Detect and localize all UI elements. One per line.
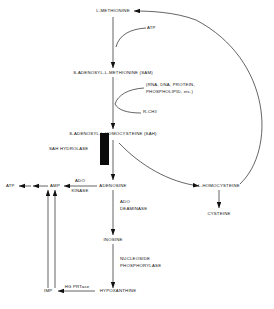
node-cysteine: CYSTEINE <box>207 211 230 217</box>
node-amp: AMP <box>50 183 60 189</box>
node-hypoxanthine: HYPOXANTHINE <box>100 288 137 294</box>
methylated-product-label: R-CH3 <box>143 109 157 115</box>
sah-hydrolase-enzyme-block <box>100 133 109 165</box>
node-l-methionine: L-METHIONINE <box>96 8 129 14</box>
enzyme-sah-hydrolase: SAH HYDROLASE <box>49 146 88 152</box>
enzyme-hg-prtase: HG PRTase <box>65 284 90 290</box>
node-l-homocysteine: L-HOMOCYSTEINE <box>198 183 240 189</box>
node-sah: S-ADENOSYL-L-HOMOCYSTEINE (SAH) <box>69 131 157 137</box>
enzyme-ado-kinase-line-2: KINASE <box>71 188 88 194</box>
methylated-product-subscript: 3 <box>155 110 157 114</box>
curve-atp-cofactor <box>116 28 146 47</box>
curve-methyl-acceptors <box>115 88 144 104</box>
node-atp: ATP <box>6 183 15 189</box>
node-adenosine: ADENOSINE <box>99 183 126 189</box>
enzyme-ado-kinase-line-1: ADO <box>75 178 85 184</box>
node-sam: S-ADENOSYL-L-METHIONINE (SAM) <box>73 70 153 76</box>
enzyme-nucleoside-phosphorylase-line-1: NUCLEOSIDE <box>120 256 150 262</box>
node-inosine: INOSINE <box>103 237 122 243</box>
enzyme-ado-deaminase-line-1: ADO <box>120 199 130 205</box>
cofactor-atp: ATP <box>147 25 156 31</box>
arrow-homocysteine-to-methionine <box>134 11 262 184</box>
enzyme-nucleoside-phosphorylase-line-2: PHOSPHORYLASE <box>120 263 161 269</box>
node-imp: IMP <box>44 288 52 294</box>
methylated-product-text: R-CH <box>143 109 155 114</box>
arrow-sah-to-homocysteine <box>119 143 199 186</box>
curve-methylated-product <box>115 104 141 113</box>
methyl-acceptor-line-1: (RNA, DNA, PROTEIN, <box>146 82 195 88</box>
enzyme-ado-deaminase-line-2: DEAMINASE <box>120 206 147 212</box>
methyl-acceptor-line-2: PHOSPHOLIPID, etc.) <box>146 89 193 95</box>
